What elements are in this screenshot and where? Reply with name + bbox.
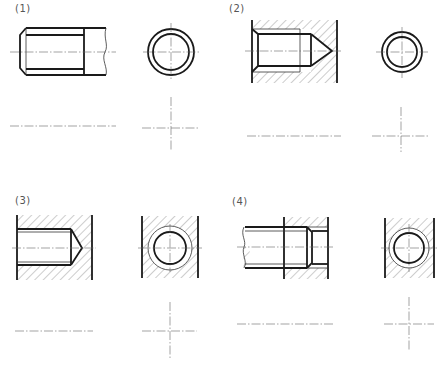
panel-4-end-view [381,218,437,278]
answer-area-4 [237,297,434,351]
panel-4-front-view [237,217,334,279]
technical-drawing [0,0,437,368]
panel-1-end-view [143,23,199,81]
answer-area-2 [247,107,428,152]
answer-area-1 [10,97,200,150]
drawing-sheet: (1) (2) (3) (4) [0,0,437,368]
panel-3-front-view [12,215,96,280]
panel-1-front-view [10,28,116,75]
panel-2-front-view [245,20,342,83]
answer-area-3 [15,302,197,360]
panel-2-end-view [376,27,428,78]
panel-3-end-view [138,216,202,278]
